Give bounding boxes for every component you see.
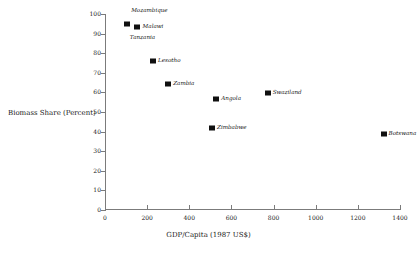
y-tick-label: 0 <box>97 207 101 213</box>
data-point-label: Botswana <box>389 131 417 137</box>
y-tick-mark <box>101 132 106 133</box>
y-tick-mark <box>101 14 106 15</box>
x-tick-label: 1400 <box>392 215 407 221</box>
y-tick-mark <box>101 171 106 172</box>
y-tick-mark <box>101 92 106 93</box>
data-point-marker <box>209 125 215 130</box>
data-point-label: Zimbabwe <box>217 125 247 131</box>
y-axis-title: Biomass Share (Percent) <box>8 110 96 117</box>
x-tick-label: 600 <box>226 215 237 221</box>
x-tick-mark <box>400 205 401 210</box>
data-point-marker <box>381 131 387 136</box>
y-tick-label: 60 <box>93 89 101 95</box>
x-tick-label: 800 <box>268 215 279 221</box>
y-tick-label: 10 <box>93 187 101 193</box>
y-tick-mark <box>101 34 106 35</box>
data-point-label: Tanzania <box>130 35 155 41</box>
data-point-marker <box>150 59 156 64</box>
x-tick-mark <box>189 205 190 210</box>
y-tick-mark <box>101 53 106 54</box>
y-tick-label: 80 <box>93 50 101 56</box>
y-tick-label: 90 <box>93 31 101 37</box>
data-point-marker <box>265 91 271 96</box>
data-point-label: Zambia <box>173 81 194 87</box>
y-tick-label: 20 <box>93 168 101 174</box>
y-tick-mark <box>101 210 106 211</box>
plot-area: 0102030405060708090100 02004006008001000… <box>105 14 400 210</box>
y-tick-label: 40 <box>93 129 101 135</box>
y-tick-mark <box>101 190 106 191</box>
data-point-label: Swaziland <box>273 91 302 97</box>
data-point-marker <box>124 21 130 26</box>
y-tick-label: 30 <box>93 148 101 154</box>
data-point-marker <box>213 97 219 102</box>
y-tick-mark <box>101 73 106 74</box>
data-point-label: Mozambique <box>131 8 168 14</box>
x-tick-label: 1000 <box>308 215 323 221</box>
y-tick-label: 70 <box>93 70 101 76</box>
x-tick-mark <box>147 205 148 210</box>
x-tick-label: 400 <box>184 215 195 221</box>
y-tick-mark <box>101 151 106 152</box>
data-point-marker <box>165 81 171 86</box>
scatter-chart-figure: Biomass Share (Percent) 0102030405060708… <box>0 0 417 254</box>
x-tick-label: 1200 <box>350 215 365 221</box>
x-tick-label: 0 <box>103 215 107 221</box>
x-tick-mark <box>316 205 317 210</box>
x-tick-mark <box>231 205 232 210</box>
y-tick-label: 100 <box>90 11 101 17</box>
x-tick-mark <box>105 205 106 210</box>
x-axis-title: GDP/Capita (1987 US$) <box>0 232 417 239</box>
data-point-marker <box>134 24 140 29</box>
y-tick-mark <box>101 112 106 113</box>
data-point-label: Malawi <box>143 24 164 30</box>
y-tick-label: 50 <box>93 109 101 115</box>
x-tick-mark <box>358 205 359 210</box>
x-tick-mark <box>274 205 275 210</box>
x-axis-line <box>105 209 400 210</box>
data-point-label: Lesotho <box>158 58 180 64</box>
data-point-label: Angola <box>221 96 241 102</box>
x-tick-label: 200 <box>141 215 152 221</box>
